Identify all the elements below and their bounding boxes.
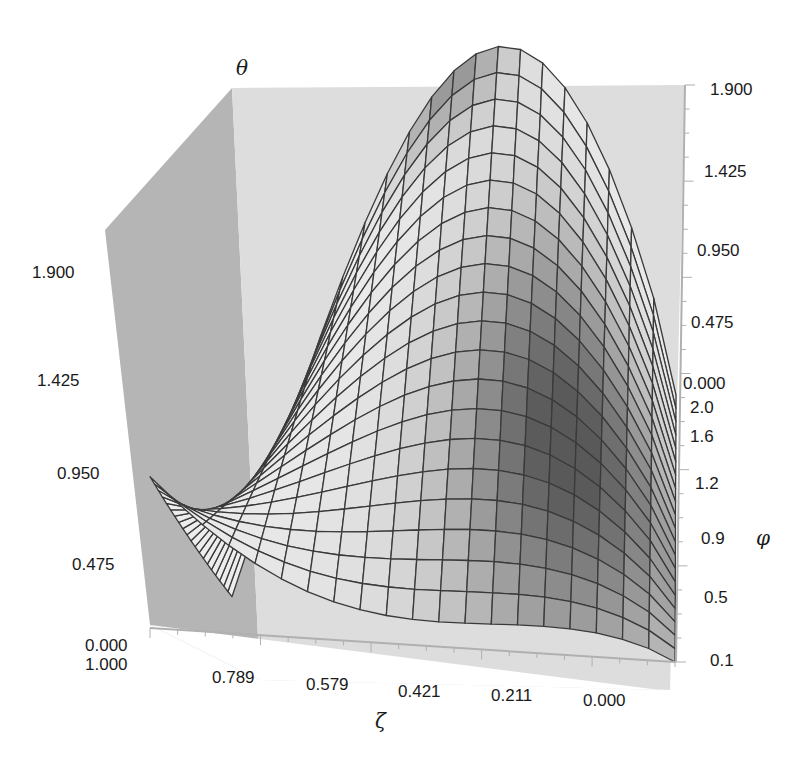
zeta-tick: 0.579 [306,675,349,694]
surface-cell [363,557,391,587]
surface-cell [342,506,370,532]
surface-cell [360,584,389,616]
surface-cell [467,561,495,593]
surface-cell [472,469,499,501]
z-left-tick: 0.000 [85,636,128,655]
surface-cell [448,438,475,469]
surface-cell [477,379,503,411]
surface-cell [461,236,487,268]
surface-cell [478,350,504,381]
surface-cell [365,531,393,559]
z-left-tick: 1.900 [32,263,75,282]
zeta-axis-title: ζ [375,709,387,733]
surface-cell [386,587,414,619]
surface-cell [389,559,417,590]
zeta-tick: 0.789 [212,668,255,687]
z-right-tick: 1.425 [704,162,747,181]
surface-cell [480,321,506,352]
surface-cell [465,592,493,624]
surface-cell [500,411,526,446]
surface-cell [393,501,421,531]
surface-cell [483,264,509,295]
surface-cell [494,531,521,564]
surface-cell [427,381,454,415]
surface-cell [490,153,515,183]
surface-cell [544,597,571,629]
surface-cell [456,321,482,352]
surface-cell [473,438,500,470]
surface-cell [439,591,467,624]
zeta-tick: 0.421 [398,682,441,701]
surface-cell [417,529,445,560]
surface-cell [492,126,517,156]
surface-cell [485,236,510,267]
zeta-tick: 1.000 [85,655,128,674]
surface-cell [291,512,320,532]
phi-axis-title: φ [756,526,770,550]
zeta-tick: 0.211 [491,686,532,705]
surface-cell [444,499,471,530]
surface-cell [398,443,425,476]
phi-tick: 1.6 [690,427,714,446]
z-left-tick: 0.475 [72,555,115,574]
surface-cell [497,47,521,76]
phi-tick: 0.1 [710,651,734,670]
surface-cell [491,593,519,625]
z-right-tick: 0.475 [691,313,734,332]
surface-cell [443,529,471,560]
surface-cell [520,534,547,568]
z-right-tick: 0.950 [697,241,740,260]
surface-cell [395,472,423,503]
surface-cell [496,501,523,535]
surface-cell [545,568,572,601]
phi-tick: 2.0 [690,398,714,417]
zeta-tick: 0.000 [583,691,626,710]
surface-cell [391,530,419,560]
z-right-tick: 0.000 [683,374,726,393]
surface-cell [370,476,398,506]
surface-cell [459,264,485,296]
z-left-tick: 0.950 [57,464,100,483]
surface-cell [499,440,525,475]
surface-cell [316,509,344,532]
surface-cell [493,562,520,595]
surface-cell [463,208,488,240]
surface-cell [493,99,517,129]
phi-tick: 0.5 [704,588,728,607]
surface-cell [446,469,473,500]
phi-tick: 1.2 [695,474,719,493]
surface-cell [339,532,367,558]
surface-cell [482,292,508,323]
surface-cell [519,564,546,597]
surface-cell [458,292,484,324]
surface-cell [452,379,479,410]
z-right-tick: 1.900 [710,80,753,99]
surface-cell [495,73,519,102]
surface-cell [367,503,395,532]
z-left-tick: 1.425 [37,371,80,390]
surface-cell [518,594,545,626]
surface-cell [454,350,480,381]
surface-cell [419,499,447,530]
surface-cell [487,208,512,239]
surface-plot: θ 1.900 1.425 0.950 0.475 0.000 1.900 1.… [0,0,802,760]
surface-cell [488,180,513,210]
surface-cell [441,560,469,592]
surface-cell [450,409,477,440]
surface-cell [475,409,502,441]
surface-cell [521,504,548,539]
surface-cell [470,499,497,531]
surface-cell [423,440,450,472]
surface-cell [425,410,452,443]
theta-axis-title: θ [236,56,248,80]
surface-cell [468,530,495,562]
phi-tick: 0.9 [701,529,725,548]
surface-cell [421,469,448,501]
surface-cell [415,560,443,591]
surface-cell [497,470,524,504]
surface-cell [413,589,441,622]
